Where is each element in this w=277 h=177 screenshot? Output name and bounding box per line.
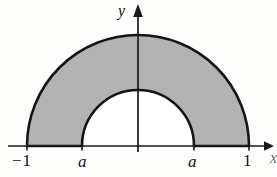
x-axis-label: x xyxy=(270,150,277,166)
y-axis-up-arrow-icon xyxy=(133,4,143,17)
x-tick-label-a-right: a xyxy=(188,153,197,170)
x-tick-label-minus-one: −1 xyxy=(12,152,32,169)
x-tick-label-a-left: a xyxy=(78,153,87,170)
half-annulus-diagram xyxy=(0,0,277,177)
x-tick-label-one: 1 xyxy=(243,152,252,169)
y-axis-label: y xyxy=(118,3,125,19)
figure-canvas: y −1 a a 1 x xyxy=(0,0,277,177)
